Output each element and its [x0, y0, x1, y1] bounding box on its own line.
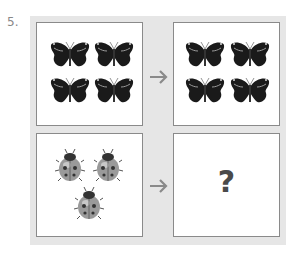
butterfly-icon — [50, 75, 90, 105]
question-number: 5. — [7, 15, 18, 29]
row1-left-box — [36, 22, 143, 126]
ladybug-icon — [93, 148, 123, 182]
question-mark: ? — [174, 164, 279, 199]
row2-left-box — [36, 133, 143, 237]
puzzle-panel: ? — [30, 16, 286, 245]
row2-right-box: ? — [173, 133, 280, 237]
butterfly-icon — [50, 39, 90, 69]
arrow-right-icon — [149, 70, 169, 84]
butterfly-icon — [94, 39, 134, 69]
butterfly-icon — [230, 75, 270, 105]
butterfly-icon — [185, 75, 225, 105]
row1-right-box — [173, 22, 280, 126]
butterfly-icon — [94, 75, 134, 105]
butterfly-icon — [230, 39, 270, 69]
ladybug-icon — [55, 148, 85, 182]
butterfly-icon — [185, 39, 225, 69]
arrow-right-icon — [149, 179, 169, 193]
ladybug-icon — [74, 186, 104, 220]
